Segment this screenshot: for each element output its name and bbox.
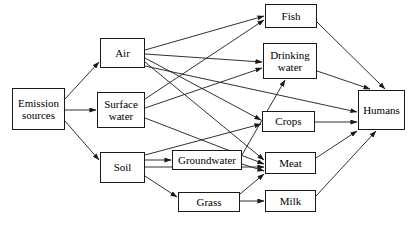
node-meat[interactable]: Meat	[265, 152, 316, 174]
node-label-humans: Humans	[363, 104, 400, 116]
edge-groundwater-to-meat	[242, 164, 264, 171]
node-humans[interactable]: Humans	[358, 90, 405, 130]
node-label-drinking_water: Drinking water	[270, 49, 310, 74]
edge-drinking_water-to-humans	[317, 71, 370, 89]
edge-meat-to-humans	[316, 131, 357, 158]
edge-fish-to-humans	[317, 22, 385, 89]
edge-air-to-fish	[145, 16, 264, 50]
node-fish[interactable]: Fish	[265, 4, 317, 28]
node-crops[interactable]: Crops	[262, 111, 315, 132]
edge-emission_sources-to-air	[65, 62, 99, 99]
node-label-emission_sources: Emission sources	[18, 97, 59, 122]
edge-milk-to-humans	[316, 131, 376, 196]
node-drinking_water[interactable]: Drinking water	[263, 43, 317, 79]
node-label-crops: Crops	[275, 115, 301, 127]
node-grass[interactable]: Grass	[178, 192, 240, 212]
node-label-surface_water: Surface water	[104, 98, 138, 123]
node-label-soil: Soil	[114, 161, 132, 173]
edge-grass-to-meat	[240, 174, 264, 194]
node-air[interactable]: Air	[100, 38, 145, 68]
node-label-milk: Milk	[280, 195, 301, 207]
edge-air-to-crops	[145, 58, 261, 120]
node-surface_water[interactable]: Surface water	[97, 92, 145, 128]
edge-soil-to-grass	[145, 176, 177, 197]
node-emission_sources[interactable]: Emission sources	[12, 88, 65, 130]
node-label-grass: Grass	[196, 196, 221, 208]
node-groundwater[interactable]: Groundwater	[172, 150, 242, 170]
node-label-air: Air	[115, 47, 130, 59]
edge-emission_sources-to-soil	[65, 121, 99, 160]
diagram-canvas: Emission sourcesAirSurface waterSoilGrou…	[0, 0, 412, 226]
edge-surface_water-to-fish	[145, 20, 264, 99]
edge-air_cross-to-humans	[145, 66, 357, 112]
node-soil[interactable]: Soil	[100, 152, 145, 183]
edge-air-to-drinking_water	[145, 54, 262, 62]
node-milk[interactable]: Milk	[265, 190, 316, 212]
node-label-groundwater: Groundwater	[178, 154, 236, 166]
node-label-fish: Fish	[282, 10, 301, 22]
edge-air-to-meat	[145, 62, 264, 160]
node-label-meat: Meat	[279, 157, 302, 169]
